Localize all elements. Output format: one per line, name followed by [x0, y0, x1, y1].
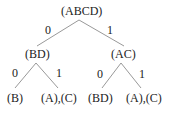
- root-node: (ABCD): [61, 5, 102, 17]
- leaf-b: (B): [7, 92, 23, 104]
- edge-label-1: 1: [107, 24, 113, 36]
- edge-label-1: 1: [139, 68, 145, 80]
- leaf-a-c: (A),(C): [41, 92, 77, 104]
- node-ac: (AC): [111, 48, 136, 60]
- edge-label-0: 0: [12, 67, 18, 79]
- decision-tree-diagram: (ABCD) 0 1 (BD) (AC) 0 1 0 1 (B) (A),(C)…: [0, 0, 169, 121]
- edge-label-1: 1: [56, 67, 62, 79]
- node-bd: (BD): [25, 48, 50, 60]
- leaf-a-c: (A),(C): [126, 92, 162, 104]
- edge-label-0: 0: [45, 24, 51, 36]
- leaf-bd: (BD): [88, 92, 113, 104]
- edge-label-0: 0: [97, 68, 103, 80]
